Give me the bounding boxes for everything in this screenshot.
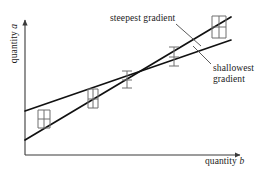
data-point-error-bar xyxy=(122,71,132,88)
steepest-gradient-line xyxy=(25,17,231,140)
y-axis-label-text: quantity xyxy=(9,29,19,63)
annotation-steepest-gradient: steepest gradient xyxy=(110,13,175,24)
annotation-shallowest-gradient: shallowest gradient xyxy=(213,63,254,85)
x-axis-label: quantity b xyxy=(205,156,244,167)
plot-canvas xyxy=(0,0,280,181)
data-point-error-bar xyxy=(88,89,98,108)
data-points-group xyxy=(38,16,226,128)
axes-group xyxy=(25,20,240,155)
figure-container: steepest gradient shallowest gradient qu… xyxy=(0,0,280,181)
shallowest-gradient-line xyxy=(25,40,231,111)
fit-lines-group xyxy=(25,17,231,140)
y-axis-label-variable: a xyxy=(9,24,19,29)
data-point-error-bar xyxy=(212,16,226,38)
y-axis-label: quantity a xyxy=(9,13,20,75)
x-axis-label-variable: b xyxy=(239,156,244,166)
x-axis-label-text: quantity xyxy=(205,156,239,166)
